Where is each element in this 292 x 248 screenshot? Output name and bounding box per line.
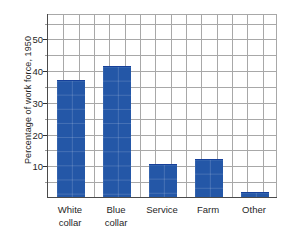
bar-texture	[103, 67, 132, 197]
y-axis-tick-labels: 1020304050	[18, 14, 43, 198]
y-axis-tick-label: 50	[32, 35, 43, 44]
bar	[149, 164, 178, 197]
plot-area	[47, 14, 277, 198]
x-axis-tick-label: Blue collar	[93, 203, 139, 229]
bar	[241, 192, 270, 197]
x-axis-tick-label: Other	[231, 203, 277, 216]
x-axis-tick-label: Farm	[185, 203, 231, 216]
y-axis-tick-label: 30	[32, 98, 43, 107]
bar	[195, 159, 224, 197]
x-axis-tick-label: Service	[139, 203, 185, 216]
bar	[57, 80, 86, 197]
x-axis-tick-labels: White collarBlue collarServiceFarmOther	[47, 203, 277, 241]
bar-texture	[149, 165, 178, 197]
bar-texture	[241, 193, 270, 197]
x-axis-tick-label: White collar	[47, 203, 93, 229]
bar-texture	[57, 81, 86, 197]
bars-layer	[48, 14, 277, 197]
y-axis-tick-label: 10	[32, 162, 43, 171]
y-axis-tick-label: 40	[32, 67, 43, 76]
bar	[103, 66, 132, 197]
bar-texture	[195, 160, 224, 197]
y-axis-tick-label: 20	[32, 130, 43, 139]
bar-chart-figure: Percentage of work force, 1950 102030405…	[0, 0, 292, 248]
